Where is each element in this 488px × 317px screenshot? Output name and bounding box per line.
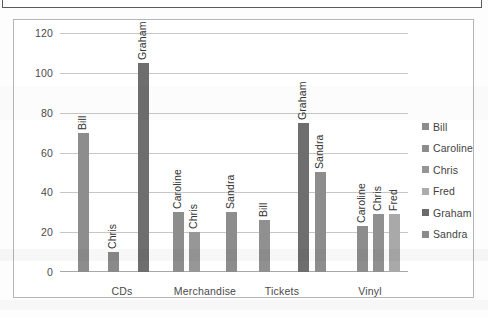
chart-frame: 120100806040200 BillChrisGrahamCarolineC… (13, 19, 474, 298)
legend-label: Graham (433, 207, 472, 219)
y-axis-tick-label: 100 (35, 67, 53, 79)
legend-label: Bill (433, 121, 447, 133)
legend-label: Fred (433, 185, 455, 197)
bar-value-label: Bill (76, 115, 88, 129)
chart-legend: BillCarolineChrisFredGrahamSandra (422, 116, 484, 245)
bar-value-label: Chris (187, 204, 199, 229)
bar[interactable]: Caroline (173, 212, 184, 272)
category-label-merchandise: Merchandise (174, 285, 236, 297)
bar[interactable]: Fred (389, 214, 400, 272)
bar-value-label: Caroline (171, 169, 183, 209)
bar-value-label: Sandra (224, 175, 236, 209)
legend-swatch-icon (422, 145, 429, 152)
bar-value-label: Chris (106, 224, 118, 249)
bar[interactable]: Chris (189, 232, 200, 272)
legend-item-caroline[interactable]: Caroline (422, 138, 484, 160)
legend-item-graham[interactable]: Graham (422, 202, 484, 224)
legend-item-sandra[interactable]: Sandra (422, 224, 484, 246)
bar[interactable]: Sandra (315, 172, 326, 272)
bar[interactable]: Bill (259, 220, 270, 272)
bar-value-label: Graham (296, 81, 308, 120)
y-axis-tick-label: 40 (41, 186, 53, 198)
bar[interactable]: Graham (298, 123, 309, 272)
legend-label: Chris (433, 164, 458, 176)
y-axis-tick-label: 80 (41, 107, 53, 119)
legend-swatch-icon (422, 188, 429, 195)
bar-value-label: Graham (136, 21, 148, 60)
legend-item-chris[interactable]: Chris (422, 159, 484, 181)
bar[interactable]: Graham (138, 63, 149, 272)
legend-swatch-icon (422, 209, 429, 216)
legend-swatch-icon (422, 123, 429, 130)
bar-value-label: Fred (387, 189, 399, 211)
clipped-document-box (2, 0, 482, 8)
bar-value-label: Sandra (313, 135, 325, 169)
bar[interactable]: Sandra (226, 212, 237, 272)
category-label-cds: CDs (111, 285, 132, 297)
y-axis-tick-label: 0 (47, 266, 53, 278)
bar[interactable]: Caroline (357, 226, 368, 272)
category-label-vinyl: Vinyl (358, 285, 382, 297)
bar[interactable]: Chris (108, 252, 119, 272)
y-axis-tick-label: 120 (35, 27, 53, 39)
bar[interactable]: Bill (78, 133, 89, 272)
legend-swatch-icon (422, 231, 429, 238)
bar-value-label: Chris (371, 186, 383, 211)
y-axis-tick-label: 60 (41, 147, 53, 159)
legend-label: Sandra (433, 228, 467, 240)
scan-artifact-band (0, 300, 488, 310)
legend-item-fred[interactable]: Fred (422, 181, 484, 203)
y-axis-tick-label: 20 (41, 226, 53, 238)
plot-area: 120100806040200 BillChrisGrahamCarolineC… (60, 33, 408, 272)
legend-item-bill[interactable]: Bill (422, 116, 484, 138)
bar[interactable]: Chris (373, 214, 384, 272)
screenshot-root: 120100806040200 BillChrisGrahamCarolineC… (0, 0, 488, 317)
legend-label: Caroline (433, 142, 473, 154)
legend-swatch-icon (422, 166, 429, 173)
bar-value-label: Caroline (355, 183, 367, 223)
bar-value-label: Bill (257, 203, 269, 217)
bars-group: BillChrisGrahamCarolineChrisSandraBillGr… (60, 33, 408, 272)
category-label-tickets: Tickets (265, 285, 299, 297)
